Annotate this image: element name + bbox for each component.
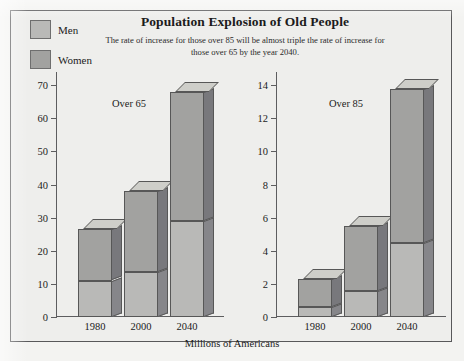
x-axis-label: Millions of Americans <box>0 338 464 349</box>
y-tick-label: 50 <box>38 146 49 157</box>
chart-subtitle: The rate of increase for those over 85 w… <box>105 35 385 58</box>
bar-1980 <box>298 279 332 317</box>
y-tick-label: 70 <box>38 80 49 91</box>
y-tick <box>271 118 277 119</box>
y-tick <box>51 251 57 252</box>
y-tick-label: 10 <box>258 146 269 157</box>
bar-2040 <box>390 89 424 317</box>
bar-side-women <box>158 188 168 273</box>
bar-segment-women <box>390 89 424 243</box>
x-tick-label-2000: 2000 <box>118 321 164 332</box>
y-tick-label: 8 <box>263 179 268 190</box>
panel-over-65: Over 65 010203040506070198020002040 <box>18 72 228 334</box>
bar-segment-men <box>170 221 204 317</box>
legend-swatch-women <box>30 50 51 69</box>
y-tick-label: 10 <box>38 278 49 289</box>
y-tick-label: 0 <box>263 312 268 323</box>
legend-label-men: Men <box>58 24 78 36</box>
bar-side-women <box>424 85 434 243</box>
y-tick <box>51 85 57 86</box>
y-tick-label: 12 <box>258 113 269 124</box>
y-tick <box>51 118 57 119</box>
y-axis-left <box>56 72 57 317</box>
y-tick-label: 0 <box>43 312 48 323</box>
y-tick <box>271 151 277 152</box>
bar-segment-men <box>78 281 112 317</box>
x-tick-label-2000: 2000 <box>338 321 384 332</box>
legend-item-women: Women <box>30 50 92 69</box>
x-tick-label-1980: 1980 <box>72 321 118 332</box>
y-tick-label: 20 <box>38 245 49 256</box>
bar-segment-men <box>344 291 378 317</box>
y-tick-label: 30 <box>38 212 49 223</box>
y-tick-label: 4 <box>263 245 268 256</box>
bar-segment-women <box>78 229 112 280</box>
x-tick-label-2040: 2040 <box>164 321 210 332</box>
y-tick <box>271 218 277 219</box>
bar-2000 <box>344 226 378 317</box>
bar-segment-men <box>124 272 158 317</box>
chart-title: Population Explosion of Old People <box>100 14 390 30</box>
chart-legend: Men Women <box>30 20 92 80</box>
bar-segment-women <box>170 92 204 221</box>
legend-item-men: Men <box>30 20 92 39</box>
bar-side-women <box>112 226 122 281</box>
bar-side-men <box>158 269 168 317</box>
y-tick-label: 40 <box>38 179 49 190</box>
y-tick-label: 6 <box>263 212 268 223</box>
y-tick <box>271 85 277 86</box>
bar-segment-men <box>298 307 332 317</box>
y-axis-right <box>276 72 277 317</box>
bar-side-men <box>424 239 434 317</box>
plot-area-over-65: 010203040506070198020002040 <box>56 72 224 317</box>
bar-side-women <box>378 222 388 290</box>
legend-swatch-men <box>30 20 51 39</box>
bar-segment-women <box>344 226 378 291</box>
y-tick <box>51 317 57 318</box>
panel-over-85: Over 85 02468101214198020002040 <box>238 72 450 334</box>
y-tick <box>271 251 277 252</box>
bar-segment-women <box>124 191 158 272</box>
bar-2040 <box>170 92 204 317</box>
y-tick <box>271 317 277 318</box>
y-tick-label: 60 <box>38 113 49 124</box>
plot-area-over-85: 02468101214198020002040 <box>276 72 446 317</box>
y-tick <box>51 284 57 285</box>
bar-side-women <box>332 275 342 307</box>
bar-side-men <box>112 277 122 317</box>
bar-1980 <box>78 229 112 317</box>
bar-2000 <box>124 191 158 317</box>
x-tick-label-1980: 1980 <box>292 321 338 332</box>
y-tick <box>271 185 277 186</box>
y-tick <box>271 284 277 285</box>
y-tick-label: 2 <box>263 278 268 289</box>
bar-side-women <box>204 88 214 221</box>
bar-side-men <box>204 217 214 317</box>
legend-label-women: Women <box>58 54 92 66</box>
bar-side-men <box>378 287 388 317</box>
x-tick-label-2040: 2040 <box>384 321 430 332</box>
y-tick <box>51 151 57 152</box>
bar-segment-men <box>390 243 424 317</box>
y-tick <box>51 185 57 186</box>
y-tick <box>51 218 57 219</box>
y-tick-label: 14 <box>258 80 269 91</box>
bar-segment-women <box>298 279 332 307</box>
chart-figure: Population Explosion of Old People The r… <box>0 0 464 361</box>
